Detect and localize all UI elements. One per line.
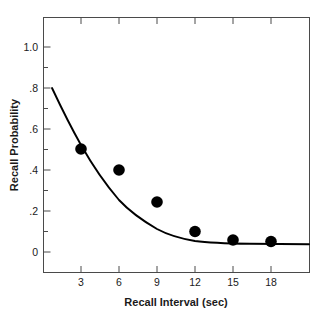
x-tick-label: 12 [189, 276, 201, 288]
data-point [151, 196, 163, 208]
data-point [113, 164, 125, 176]
y-tick-label: .8 [29, 82, 38, 94]
data-point [189, 226, 201, 238]
x-axis-tick-labels: 3 6 9 12 15 18 [78, 276, 277, 288]
recall-probability-scatter-chart: 1.0 .8 .6 .4 .2 0 3 6 9 12 15 18 R [0, 0, 325, 320]
data-point [227, 234, 239, 246]
data-point [75, 143, 87, 155]
data-point [265, 236, 277, 248]
x-tick-label: 3 [78, 276, 84, 288]
x-tick-label: 18 [265, 276, 277, 288]
y-axis-title: Recall Probability [8, 98, 20, 191]
x-tick-label: 6 [116, 276, 122, 288]
y-axis-tick-labels: 1.0 .8 .6 .4 .2 0 [23, 41, 38, 258]
x-tick-label: 15 [227, 276, 239, 288]
chart-figure: 1.0 .8 .6 .4 .2 0 3 6 9 12 15 18 R [0, 0, 325, 320]
x-tick-label: 9 [154, 276, 160, 288]
y-tick-label: .2 [29, 205, 38, 217]
x-axis-title: Recall Interval (sec) [124, 296, 228, 308]
y-tick-label: .6 [29, 123, 38, 135]
y-tick-label: 1.0 [23, 41, 38, 53]
y-tick-label: .4 [29, 164, 38, 176]
y-tick-label: 0 [32, 246, 38, 258]
